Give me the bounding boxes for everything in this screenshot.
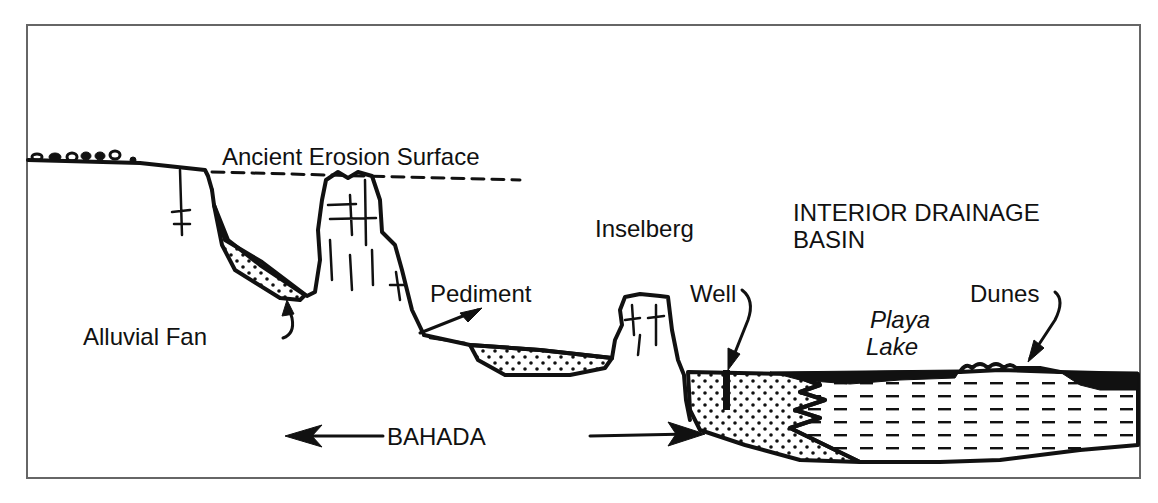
label-bahada: BAHADA: [387, 423, 486, 450]
label-well: Well: [690, 280, 736, 307]
desert-landforms-diagram: Ancient Erosion Surface Pediment Inselbe…: [0, 0, 1158, 503]
label-alluvial-fan: Alluvial Fan: [83, 323, 207, 350]
alluvial-fan: [212, 172, 424, 335]
label-dunes: Dunes: [970, 280, 1039, 307]
plateau: [28, 151, 212, 235]
label-interior-drainage-basin-line2: BASIN: [793, 226, 865, 253]
pediment-arrow: [420, 308, 482, 333]
pediment: [424, 335, 612, 375]
mesa-butte: [328, 180, 405, 300]
label-pediment: Pediment: [430, 280, 532, 307]
label-playa-line1: Playa: [870, 306, 930, 333]
label-inselberg: Inselberg: [595, 215, 694, 242]
label-playa-line2: Lake: [866, 333, 918, 360]
well: [723, 370, 730, 410]
label-interior-drainage-basin-line1: INTERIOR DRAINAGE: [793, 199, 1040, 226]
inselberg: [612, 294, 690, 420]
bahada-extent-arrow: [285, 422, 705, 447]
label-ancient-erosion-surface: Ancient Erosion Surface: [222, 143, 479, 170]
alluvial-fan-arrow: [282, 300, 294, 338]
